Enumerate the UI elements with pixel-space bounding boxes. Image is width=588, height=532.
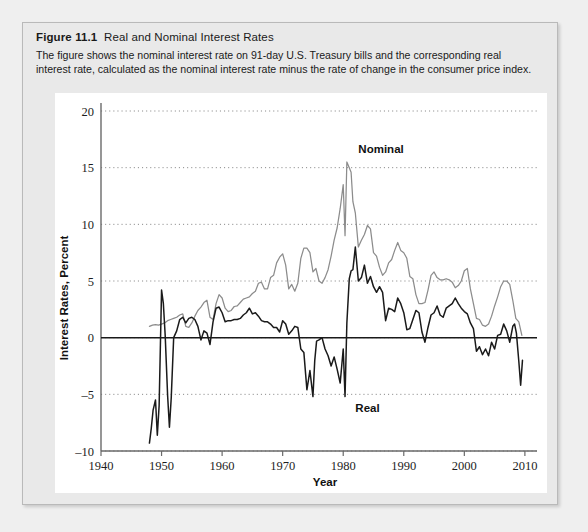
x-tick-label: 1950 <box>149 459 174 473</box>
interest-rates-line-chart: –10–505101520 19401950196019701980199020… <box>55 93 547 493</box>
x-tick-label: 2010 <box>512 459 537 473</box>
figure-description: The figure shows the nominal interest ra… <box>36 48 536 76</box>
y-tick-label: 0 <box>88 331 94 345</box>
x-tick-label: 1960 <box>210 459 235 473</box>
y-tick-label: –10 <box>74 445 94 459</box>
x-axis-title: Year <box>313 476 338 488</box>
figure-title-line: Figure 11.1 Real and Nominal Interest Ra… <box>36 31 545 43</box>
data-series <box>149 162 522 443</box>
x-tick-label: 1980 <box>331 459 356 473</box>
series-line-nominal <box>149 162 521 335</box>
y-tick-label: 20 <box>82 105 95 119</box>
x-axis-tick-labels: 19401950196019701980199020002010 <box>89 459 538 473</box>
chart-canvas: –10–505101520 19401950196019701980199020… <box>55 93 547 493</box>
y-axis-title: Interest Rates, Percent <box>58 236 70 361</box>
figure-panel: Figure 11.1 Real and Nominal Interest Ra… <box>22 22 558 505</box>
series-line-real <box>149 247 522 443</box>
y-axis-tick-labels: –10–505101520 <box>74 105 94 459</box>
figure-caption-block: Figure 11.1 Real and Nominal Interest Ra… <box>36 31 545 76</box>
annotation-real: Real <box>355 402 379 414</box>
y-tick-label: 5 <box>88 275 94 289</box>
y-tick-label: 15 <box>82 161 95 175</box>
x-tick-label: 1970 <box>270 459 295 473</box>
figure-number: Figure 11.1 <box>36 31 97 43</box>
y-tick-label: 10 <box>82 218 95 232</box>
x-tick-label: 1940 <box>89 459 114 473</box>
figure-title: Real and Nominal Interest Rates <box>104 31 274 43</box>
y-tick-label: –5 <box>81 388 95 402</box>
annotation-nominal: Nominal <box>358 143 403 155</box>
x-tick-label: 2000 <box>452 459 477 473</box>
x-tick-label: 1990 <box>391 459 416 473</box>
series-annotations: NominalReal <box>355 143 403 415</box>
